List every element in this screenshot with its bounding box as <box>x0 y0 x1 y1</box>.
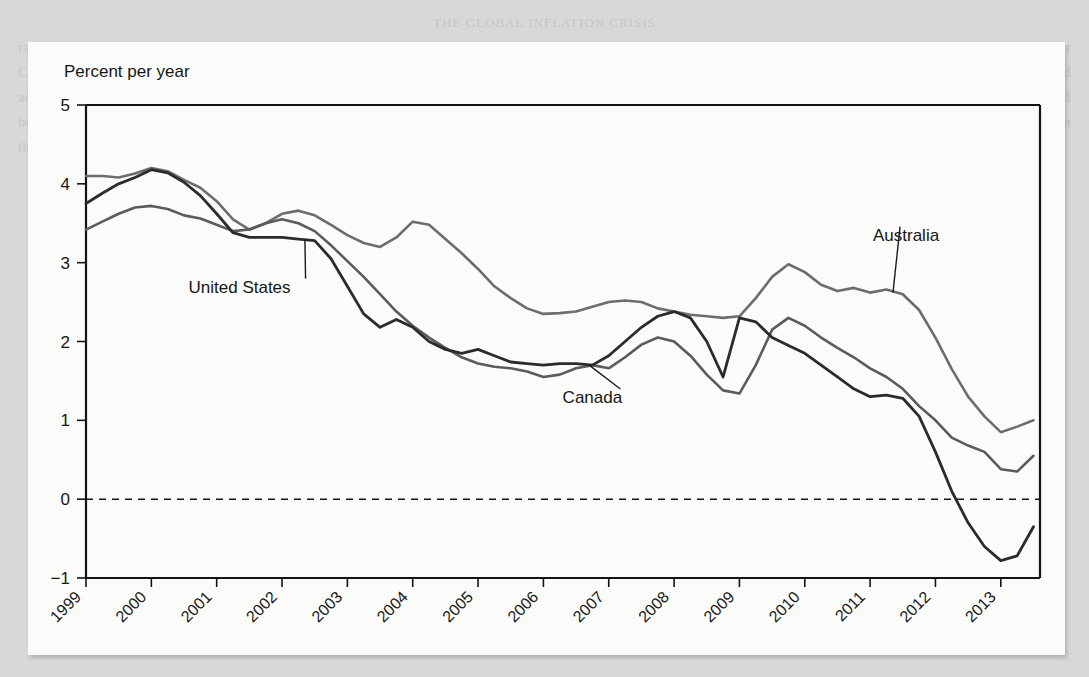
x-tick-label: 2001 <box>178 588 215 625</box>
bleed-heading: THE GLOBAL INFLATION CRISIS <box>18 10 1071 35</box>
y-tick-label: 0 <box>61 490 70 509</box>
annotation-leader-united-states <box>305 239 306 279</box>
x-tick-label-group: 2012 <box>896 588 933 625</box>
x-tick-label: 2012 <box>896 588 933 625</box>
x-tick-label-group: 2010 <box>766 588 803 625</box>
y-tick-label: −1 <box>51 569 70 588</box>
series-line-canada <box>86 206 1033 472</box>
x-tick-label-group: 2009 <box>700 588 737 625</box>
x-tick-label: 1999 <box>47 588 84 625</box>
annotation-label-canada: Canada <box>563 388 623 407</box>
x-tick-label: 2010 <box>766 588 803 625</box>
y-tick-label: 3 <box>61 254 70 273</box>
x-tick-label: 2007 <box>570 588 607 625</box>
y-tick-label: 5 <box>61 96 70 115</box>
x-tick-label: 2003 <box>308 588 345 625</box>
x-tick-label: 2000 <box>112 588 149 625</box>
x-tick-label: 2005 <box>439 588 476 625</box>
x-tick-label-group: 2004 <box>374 588 411 625</box>
line-chart-figure: Percent per year 543210−1199920002001200… <box>28 42 1065 655</box>
y-tick-label: 2 <box>61 333 70 352</box>
x-tick-label: 2002 <box>243 588 280 625</box>
x-tick-label: 2011 <box>832 588 868 624</box>
x-tick-label-group: 2000 <box>112 588 149 625</box>
x-tick-label: 2004 <box>374 588 411 625</box>
x-tick-label: 2006 <box>504 588 541 625</box>
series-line-australia <box>86 168 1033 432</box>
x-tick-label-group: 2006 <box>504 588 541 625</box>
x-tick-label: 2013 <box>962 588 999 625</box>
x-tick-label-group: 2013 <box>962 588 999 625</box>
x-tick-label-group: 2011 <box>832 588 868 624</box>
x-tick-label-group: 1999 <box>47 588 84 625</box>
x-tick-label-group: 2003 <box>308 588 345 625</box>
x-tick-label-group: 2008 <box>635 588 672 625</box>
x-tick-label: 2009 <box>700 588 737 625</box>
x-tick-label-group: 2007 <box>570 588 607 625</box>
x-tick-label-group: 2001 <box>178 588 215 625</box>
x-tick-label: 2008 <box>635 588 672 625</box>
x-tick-label-group: 2002 <box>243 588 280 625</box>
chart-svg: 543210−119992000200120022003200420052006… <box>28 42 1065 655</box>
y-tick-label: 4 <box>61 175 70 194</box>
chart-card: Percent per year 543210−1199920002001200… <box>28 42 1065 655</box>
annotation-label-united-states: United States <box>189 278 291 297</box>
x-tick-label-group: 2005 <box>439 588 476 625</box>
y-tick-label: 1 <box>61 411 70 430</box>
annotation-label-australia: Australia <box>873 226 940 245</box>
